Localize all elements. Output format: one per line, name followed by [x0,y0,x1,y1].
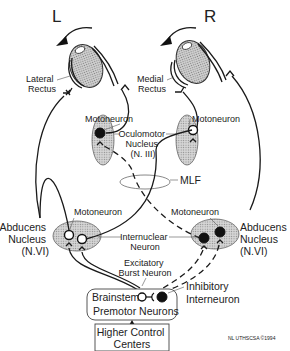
left-abducens-motoneuron [65,231,74,240]
right-eye-icon [170,36,226,88]
inhibitory-interneuron-label: Inhibitory Interneuron [186,280,240,305]
left-abducens-nucleus [53,221,101,251]
left-internuclear-neuron [78,235,87,244]
left-oculomotor-motoneuron [95,128,105,138]
copyright-credit: NL UTHSCSA ©1994 [228,335,276,341]
eye-movement-circuit-diagram: L R Lateral Rectus Medial Rectus [0,0,290,351]
lateral-rectus-label: Lateral Rectus [26,74,57,94]
mlf-label: MLF [180,174,201,186]
right-abducens-motoneuron [215,227,225,237]
inhibitory-interneuron [157,292,167,302]
right-internuclear-neuron [199,233,209,243]
right-abducens-to-lateral-rectus-path [232,76,260,210]
right-abducens-nucleus-label: Abducens Nucleus (N.VI) [240,221,290,257]
oculomotor-nucleus-label: Oculomotor Nucleus (N. III) [118,129,167,159]
left-abducens-motoneuron-label: Motoneuron [74,207,122,217]
left-eye-icon [63,40,118,92]
right-oculomotor-motoneuron-label: Motoneuron [192,114,240,124]
excitatory-burst-neuron [138,293,146,301]
right-side-label: R [204,7,216,26]
excitatory-burst-neuron-label: Excitatory Burst Neuron [118,258,171,278]
left-abducens-nucleus-label: Abducens Nucleus (N.VI) [0,221,49,257]
medial-rectus-label: Medial Rectus [137,74,167,94]
internuclear-neuron-label: Internuclear Neuron [120,232,170,252]
right-abducens-motoneuron-label: Motoneuron [171,207,219,217]
mlf-tract [120,175,170,189]
left-rotation-arrow-icon [56,28,92,46]
left-side-label: L [52,7,61,26]
